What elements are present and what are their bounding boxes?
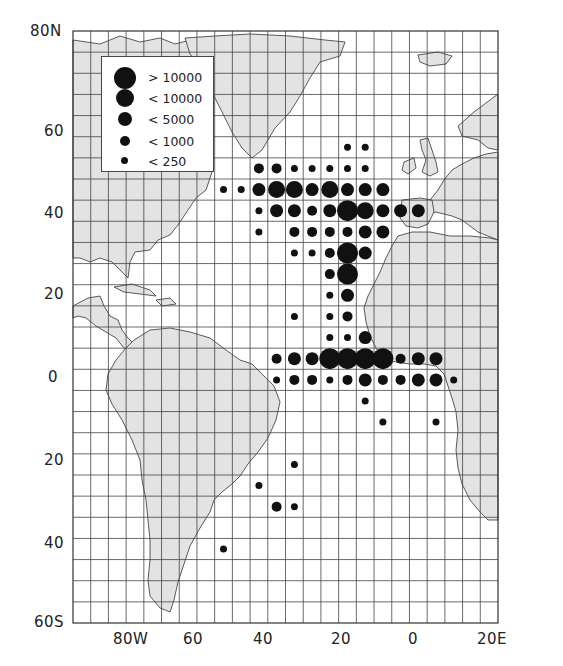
legend-item: < 10000: [102, 89, 213, 109]
catch-dot: [326, 334, 333, 341]
catch-dot: [341, 289, 354, 302]
catch-dot: [343, 375, 353, 385]
catch-dot: [307, 375, 317, 385]
south-america: [106, 328, 280, 612]
catch-dot: [433, 419, 440, 426]
catch-dot: [326, 376, 333, 383]
cuba: [114, 284, 156, 296]
catch-dot: [396, 375, 406, 385]
legend-label: < 1000: [148, 134, 194, 149]
atlantic-map: [0, 0, 563, 666]
catch-dot: [359, 373, 372, 386]
catch-dot: [291, 503, 298, 510]
catch-dot: [306, 183, 319, 196]
catch-dot: [323, 204, 336, 217]
catch-dot: [306, 352, 319, 365]
catch-dot: [376, 225, 389, 238]
catch-dot: [289, 227, 299, 237]
catch-dot: [376, 204, 389, 217]
legend-label: < 5000: [148, 112, 194, 127]
catch-dot: [325, 248, 335, 258]
lon-label-60w: 60: [183, 630, 203, 648]
catch-dot: [255, 228, 262, 235]
lat-label-20s: 20: [44, 451, 64, 469]
catch-dot: [343, 311, 353, 321]
lon-label-40w: 40: [253, 630, 273, 648]
catch-dot: [288, 204, 301, 217]
catch-dot: [286, 181, 303, 198]
legend-dot-xl: [114, 67, 136, 89]
lon-label-20w: 20: [331, 630, 351, 648]
catch-dot: [379, 419, 386, 426]
scandinavia: [458, 94, 498, 150]
legend-dot-md: [118, 112, 132, 126]
catch-dot: [220, 546, 227, 553]
legend-dot-sm: [120, 136, 130, 146]
legend-item: > 10000: [102, 68, 213, 88]
hispaniola: [156, 298, 176, 306]
legend-item: < 250: [102, 152, 213, 172]
legend-label: < 250: [148, 154, 186, 169]
legend-label: > 10000: [148, 70, 202, 85]
catch-dot: [272, 354, 282, 364]
catch-dot: [450, 376, 457, 383]
catch-dot: [288, 352, 301, 365]
catch-dot: [326, 292, 333, 299]
catch-dot: [344, 334, 351, 341]
catch-dot: [430, 373, 443, 386]
lat-label-60n: 60: [44, 122, 64, 140]
catch-dot: [412, 204, 425, 217]
catch-dot: [252, 183, 265, 196]
catch-dot: [307, 206, 317, 216]
legend-dot-xs: [121, 157, 128, 164]
ireland: [402, 158, 416, 174]
catch-dot: [430, 352, 443, 365]
catch-dot: [273, 376, 280, 383]
lat-label-60s: 60S: [34, 613, 64, 631]
catch-dot: [362, 144, 369, 151]
legend-item: < 5000: [102, 110, 213, 130]
legend-dot-lg: [116, 89, 134, 107]
catch-dot: [337, 200, 358, 221]
catch-dot: [291, 250, 298, 257]
catch-dot: [337, 243, 358, 264]
catch-dot: [289, 375, 299, 385]
catch-dot: [359, 183, 372, 196]
lon-label-0: 0: [408, 630, 418, 648]
catch-dot: [272, 163, 282, 173]
catch-dot: [272, 502, 282, 512]
lat-label-0: 0: [48, 368, 58, 386]
catch-dot: [412, 373, 425, 386]
legend-label: < 10000: [148, 91, 202, 106]
lat-label-20n: 20: [44, 285, 64, 303]
great-britain: [420, 138, 438, 176]
lat-label-80n: 80N: [30, 22, 62, 40]
catch-dot: [326, 165, 333, 172]
catch-dot: [378, 375, 388, 385]
legend: > 10000 < 10000 < 5000 < 1000 < 250: [101, 56, 214, 172]
catch-dot: [396, 354, 406, 364]
catch-dot: [325, 227, 335, 237]
catch-dot: [291, 165, 298, 172]
catch-dot: [291, 313, 298, 320]
catch-dot: [255, 207, 262, 214]
legend-item: < 1000: [102, 132, 213, 152]
catch-dot: [362, 398, 369, 405]
catch-dot: [307, 227, 317, 237]
catch-dot: [220, 186, 227, 193]
catch-dot: [326, 313, 333, 320]
catch-dot: [412, 352, 425, 365]
catch-dot: [344, 165, 351, 172]
catch-dot: [337, 264, 358, 285]
lon-label-80w: 80W: [113, 630, 148, 648]
lat-label-40s: 40: [44, 534, 64, 552]
catch-dot: [357, 202, 374, 219]
catch-dot: [359, 331, 372, 344]
catch-dot: [325, 269, 335, 279]
catch-dot: [359, 225, 372, 238]
catch-dot: [394, 204, 407, 217]
catch-dot: [376, 183, 389, 196]
catch-dot: [362, 165, 369, 172]
catch-dot: [309, 165, 316, 172]
catch-dot: [238, 186, 245, 193]
